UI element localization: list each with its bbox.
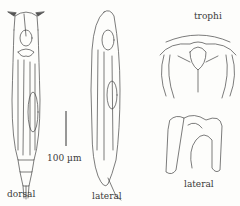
lateral-body-label: lateral [92, 191, 122, 201]
scale-bar-label: 100 µm [47, 153, 81, 163]
trophi-drawing [160, 35, 236, 98]
rotifer-figure: trophi 100 µm dorsal lateral lateral [0, 0, 240, 206]
dorsal-label: dorsal [7, 189, 35, 199]
dorsal-body-drawing [8, 12, 44, 199]
trophi-label: trophi [194, 11, 222, 21]
lateral-trophi-label: lateral [184, 179, 214, 189]
figure-drawings [0, 0, 240, 206]
lateral-body-drawing [91, 11, 121, 200]
trophi-lateral-drawing [166, 115, 222, 173]
